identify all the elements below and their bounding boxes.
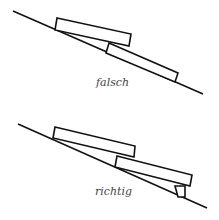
lower-plank-richtig xyxy=(115,156,192,186)
upper-plank-falsch xyxy=(55,18,131,46)
label-richtig: richtig xyxy=(95,185,132,198)
wedge-block xyxy=(175,186,185,197)
diagram: falsch richtig xyxy=(0,0,219,220)
upper-plank-richtig xyxy=(53,127,135,157)
label-falsch: falsch xyxy=(96,76,129,89)
